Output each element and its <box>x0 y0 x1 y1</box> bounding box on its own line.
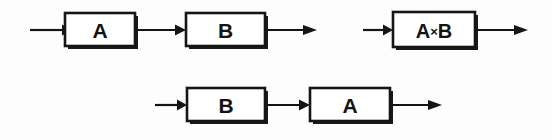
link-arrow-a-to-b-head <box>175 25 186 36</box>
block-a-bottom[interactable]: A <box>310 88 393 124</box>
input-arrow-bottom <box>155 100 187 111</box>
diagram-product-a-times-b: A×B <box>363 12 528 50</box>
block-a-times-b-label-right: B <box>438 20 452 42</box>
diagram-series-b-then-a: B A <box>155 88 442 124</box>
block-a-times-b-label-left: A <box>416 20 430 42</box>
input-arrow-bottom-head <box>177 100 187 111</box>
link-arrow-b-to-a-head <box>299 100 310 111</box>
output-arrow-diagram-1-head <box>303 25 317 35</box>
diagram-canvas: A B <box>0 0 552 140</box>
block-a-bottom-label: A <box>342 94 357 117</box>
block-b-top-label: B <box>218 19 233 42</box>
block-a-times-b[interactable]: A×B <box>393 12 478 50</box>
output-arrow-bottom <box>390 100 442 110</box>
diagram-series-a-then-b: A B <box>30 13 317 49</box>
block-b-top[interactable]: B <box>186 13 268 49</box>
output-arrow-diagram-1 <box>265 25 317 35</box>
block-diagram-figure: A B <box>0 0 552 140</box>
output-arrow-product-head <box>514 25 528 35</box>
link-arrow-b-to-a <box>265 100 310 111</box>
link-arrow-a-to-b <box>135 25 186 36</box>
input-arrow-product-head <box>383 25 393 36</box>
block-b-bottom-label: B <box>218 94 233 117</box>
output-arrow-product <box>475 25 528 35</box>
block-a-label: A <box>92 19 107 42</box>
output-arrow-bottom-head <box>428 100 442 110</box>
input-arrow-product <box>363 25 393 36</box>
block-b-bottom[interactable]: B <box>187 88 268 124</box>
block-a[interactable]: A <box>65 13 138 49</box>
